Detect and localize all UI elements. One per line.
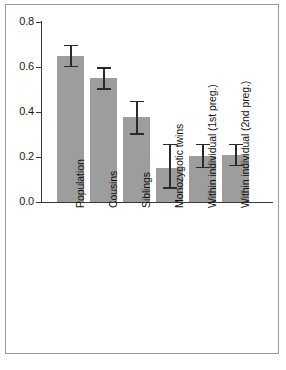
x-axis-category-label: Cousins — [108, 171, 119, 208]
y-axis-tick-label: 0.8 — [0, 16, 34, 27]
error-bar-stem — [202, 144, 204, 169]
y-axis-tick — [36, 22, 41, 23]
error-bar-stem — [103, 67, 105, 90]
error-bar-stem — [169, 144, 171, 189]
y-axis-tick — [36, 157, 41, 158]
x-axis-category-label: Siblings — [141, 172, 152, 208]
error-bar-cap-upper — [64, 45, 78, 47]
y-axis-tick — [36, 202, 41, 203]
error-bar-stem — [136, 101, 138, 135]
error-bar — [57, 45, 84, 68]
x-axis-category-label: Monozygotic twins — [174, 124, 185, 208]
y-axis-tick-label: 0.0 — [0, 196, 34, 207]
y-axis-tick-label: 0.2 — [0, 151, 34, 162]
y-axis-tick — [36, 67, 41, 68]
y-axis-tick-label: 0.4 — [0, 106, 34, 117]
y-axis-line — [41, 21, 42, 203]
error-bar-cap-upper — [130, 101, 144, 103]
error-bar-cap-lower — [64, 66, 78, 68]
bar-chart-plot-area: 0.00.20.40.60.8 PopulationCousinsSibling… — [6, 5, 280, 355]
error-bar-stem — [235, 144, 237, 167]
error-bar-cap-lower — [97, 88, 111, 90]
x-axis-category-label: Within individual (2nd preg.) — [240, 81, 251, 208]
error-bar — [90, 67, 117, 90]
x-axis-category-label: Population — [75, 159, 86, 208]
figure-frame: 0.00.20.40.60.8 PopulationCousinsSibling… — [5, 4, 279, 354]
error-bar-stem — [70, 45, 72, 68]
error-bar-cap-lower — [130, 133, 144, 135]
y-axis-tick-label: 0.6 — [0, 61, 34, 72]
x-axis-category-label: Within individual (1st preg.) — [207, 84, 218, 208]
error-bar — [123, 101, 150, 135]
y-axis-tick — [36, 112, 41, 113]
error-bar-cap-upper — [97, 67, 111, 69]
